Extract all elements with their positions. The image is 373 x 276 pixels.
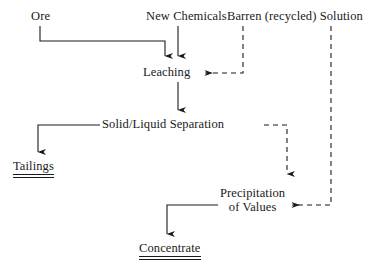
node-leaching: Leaching <box>143 66 190 79</box>
edge-ore-to-leaching <box>40 26 165 56</box>
tailings-double-underline <box>13 174 54 178</box>
node-solid-liquid-separation: Solid/Liquid Separation <box>102 118 224 131</box>
node-precipitation-line2: of Values <box>229 200 277 214</box>
node-concentrate: Concentrate <box>139 242 201 261</box>
node-tailings-label: Tailings <box>13 159 54 173</box>
edge-separation-to-tailings <box>38 125 100 152</box>
concentrate-double-underline <box>139 256 201 260</box>
edge-separation-to-precipitation <box>264 125 287 174</box>
node-precipitation-of-values: Precipitation of Values <box>220 186 285 214</box>
node-precipitation-line1: Precipitation <box>220 186 285 200</box>
node-ore: Ore <box>31 10 50 23</box>
node-tailings: Tailings <box>13 160 54 179</box>
node-concentrate-label: Concentrate <box>139 241 201 255</box>
edge-precipitation-to-concentrate <box>167 205 218 234</box>
edge-barren-to-leaching <box>205 26 243 73</box>
node-barren-solution: Barren (recycled) Solution <box>227 10 363 23</box>
node-new-chemicals: New Chemicals <box>146 10 227 23</box>
flowchart-connectors <box>0 0 373 276</box>
edge-barren-to-precipitation <box>292 26 331 205</box>
process-flowchart: Ore New Chemicals Barren (recycled) Solu… <box>0 0 373 276</box>
